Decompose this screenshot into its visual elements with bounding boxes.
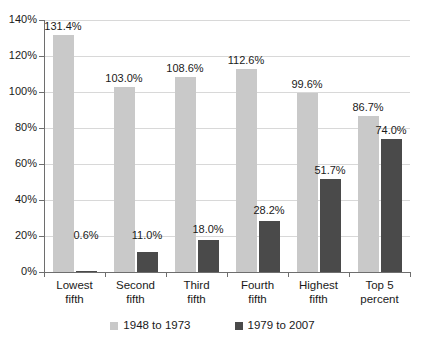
bar-series2 — [381, 139, 402, 272]
bar-value-label: 131.4% — [40, 21, 86, 32]
gridline — [44, 20, 410, 21]
bar-series1 — [114, 87, 135, 272]
bar-value-label: 108.6% — [162, 63, 208, 74]
x-axis-tick — [288, 272, 289, 277]
x-axis-category-label-line: Fourth — [227, 279, 288, 293]
bar-series1 — [175, 77, 196, 272]
bar-series2 — [137, 252, 158, 272]
legend-item-label: 1979 to 2007 — [248, 320, 315, 332]
x-axis-tick — [349, 272, 350, 277]
bar-value-label: 11.0% — [124, 230, 170, 241]
bar-value-label: 74.0% — [368, 125, 414, 136]
bar-series1 — [297, 93, 318, 272]
y-axis-tick-label: 20% — [0, 230, 37, 241]
y-axis-tick-label: 80% — [0, 122, 37, 133]
x-axis-category-label: Secondfifth — [105, 279, 166, 306]
x-axis-category-label: Fourthfifth — [227, 279, 288, 306]
legend-item-label: 1948 to 1973 — [123, 320, 190, 332]
x-axis-category-label-line: Third — [166, 279, 227, 293]
y-axis-tick-label: 0% — [0, 266, 37, 277]
bar-value-label: 0.6% — [63, 230, 109, 241]
dark-gray-swatch — [235, 322, 243, 330]
gridline — [44, 92, 410, 93]
chart-legend: 1948 to 19731979 to 2007 — [0, 320, 425, 332]
plot-area: 131.4%0.6%103.0%11.0%108.6%18.0%112.6%28… — [44, 20, 410, 272]
bar-chart: 0%20%40%60%80%100%120%140% 131.4%0.6%103… — [0, 0, 425, 346]
x-axis-category-label-line: fifth — [227, 293, 288, 307]
bar-series2 — [259, 221, 280, 272]
y-axis-tick-label: 140% — [0, 14, 37, 25]
x-axis-tick — [44, 272, 45, 277]
x-axis-category-label-line: fifth — [166, 293, 227, 307]
x-axis-tick — [166, 272, 167, 277]
bar-series2 — [198, 240, 219, 272]
x-axis-category-label-line: fifth — [44, 293, 105, 307]
y-axis-line — [44, 20, 45, 273]
y-axis-tick-label: 40% — [0, 194, 37, 205]
x-axis-tick — [105, 272, 106, 277]
bar-series1 — [236, 69, 257, 272]
x-axis-category-label-line: percent — [349, 293, 410, 307]
x-axis-tick — [227, 272, 228, 277]
x-axis-category-label: Lowestfifth — [44, 279, 105, 306]
x-axis-category-label-line: fifth — [105, 293, 166, 307]
bar-series2 — [320, 179, 341, 272]
y-axis-tick-label: 60% — [0, 158, 37, 169]
bar-value-label: 28.2% — [246, 205, 292, 216]
x-axis-category-label-line: Top 5 — [349, 279, 410, 293]
gridline — [44, 128, 410, 129]
x-axis-category-label: Highestfifth — [288, 279, 349, 306]
bar-value-label: 51.7% — [307, 165, 353, 176]
gridline — [44, 200, 410, 201]
legend-item: 1979 to 2007 — [235, 320, 315, 332]
x-axis-category-label-line: fifth — [288, 293, 349, 307]
bar-series1 — [358, 116, 379, 272]
gridline — [44, 164, 410, 165]
x-axis-category-label-line: Second — [105, 279, 166, 293]
x-axis-category-label-line: Highest — [288, 279, 349, 293]
bar-value-label: 99.6% — [284, 79, 330, 90]
x-axis-category-label: Thirdfifth — [166, 279, 227, 306]
x-axis-category-label-line: Lowest — [44, 279, 105, 293]
x-axis-category-label: Top 5percent — [349, 279, 410, 306]
bar-value-label: 86.7% — [345, 102, 391, 113]
legend-item: 1948 to 1973 — [110, 320, 190, 332]
bar-value-label: 103.0% — [101, 73, 147, 84]
bar-value-label: 18.0% — [185, 224, 231, 235]
y-axis-tick-label: 120% — [0, 50, 37, 61]
bar-value-label: 112.6% — [223, 55, 269, 66]
light-gray-swatch — [110, 322, 118, 330]
x-axis-tick — [410, 272, 411, 277]
y-axis-tick-label: 100% — [0, 86, 37, 97]
